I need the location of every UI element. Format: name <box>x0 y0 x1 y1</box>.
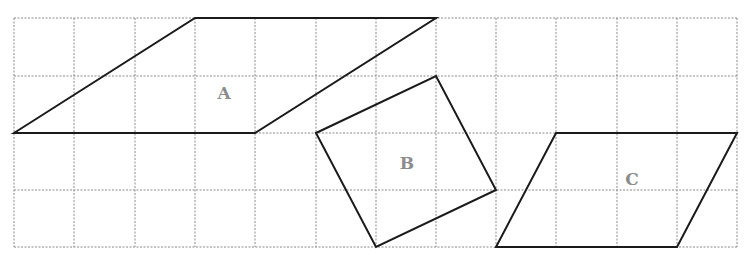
shape-b-label: B <box>400 153 414 173</box>
shape-c-label: C <box>625 169 639 189</box>
grid-diagram: A B C <box>0 0 746 264</box>
shape-a-label: A <box>217 83 230 103</box>
grid-canvas <box>0 0 746 264</box>
